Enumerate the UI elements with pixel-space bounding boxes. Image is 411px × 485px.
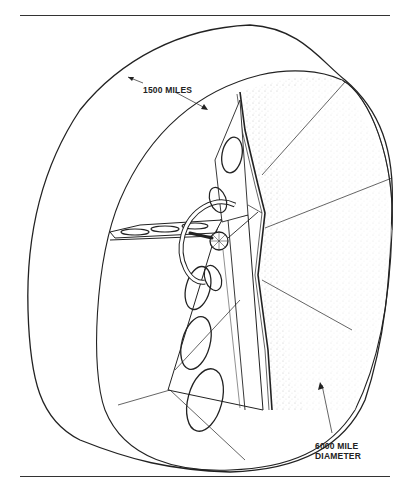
habitat-diagram [0, 0, 411, 485]
diameter-label-line1: 6000 MILE [315, 441, 361, 451]
width-label: 1500 MILES [143, 85, 192, 95]
diameter-label: 6000 MILE DIAMETER [315, 441, 361, 461]
diameter-label-line2: DIAMETER [315, 451, 361, 461]
bottom-rule [20, 476, 390, 477]
